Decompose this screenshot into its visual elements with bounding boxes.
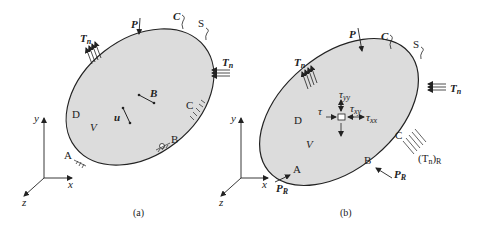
label-pr-right-b: PR [394,168,407,182]
label-tn-right-a: Tn [222,56,234,70]
traction-tnr-b [403,129,426,154]
curve-s-pointer-b [421,47,424,59]
label-tn-right-b: Tn [450,82,462,96]
support-a-hatch-a [74,160,86,168]
label-d-a: D [72,108,80,120]
axis-z-label-a: z [21,196,27,208]
label-c-top-a: C [173,10,181,22]
caption-a: (a) [133,207,144,219]
curve-s-pointer-a [206,28,209,40]
label-tn-left-a: Tn [80,32,92,46]
stress-element [338,114,345,120]
traction-tn-right-a [212,70,230,76]
label-p-b: P [349,28,356,40]
label-s-b: S [413,38,419,50]
curve-c-pointer-a [182,15,184,29]
traction-tn-right-b [428,84,446,90]
body-a [40,1,241,193]
label-d-b: D [294,114,302,126]
axis-z-label-b: z [218,196,224,208]
axis-y-label-b: y [230,112,236,124]
label-tn-left-b: Tn [294,56,306,70]
label-c-right-a: C [186,99,193,111]
label-p-a: P [131,18,138,30]
force-p-arrow-a [139,18,140,34]
panel-a: y x z P C S Tn Tn B u [21,1,240,219]
label-c-right-b: C [395,129,402,141]
label-pr-left-b: PR [276,182,289,196]
label-b-support-a: B [171,133,178,145]
label-b-b: B [364,154,371,166]
label-a-a: A [64,149,72,161]
axis-x-label-a: x [67,178,73,190]
label-s-a: S [198,17,204,29]
panel-b: y x z P C S Tn Tn [218,9,462,219]
elasticity-body-diagram: y x z P C S Tn Tn B u [0,0,478,234]
caption-b: (b) [340,207,352,219]
axis-y-label-a: y [33,112,39,124]
axis-x-label-b: x [261,178,267,190]
label-c-top-b: C [381,30,389,42]
force-pr-right-arrow-b [376,168,392,178]
label-u-vector-a: u [114,111,120,123]
label-tnr-b: (Tn)R [418,152,442,166]
label-a-b: A [293,163,301,175]
label-b-vector-a: B [149,87,157,99]
